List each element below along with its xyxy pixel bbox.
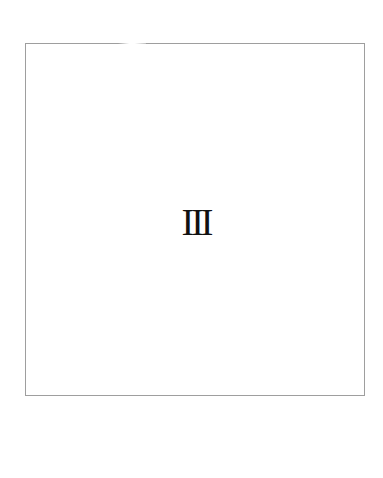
page-frame: III [25,43,365,396]
frame-border-gap [118,43,146,44]
roman-numeral-three: III [183,205,209,239]
